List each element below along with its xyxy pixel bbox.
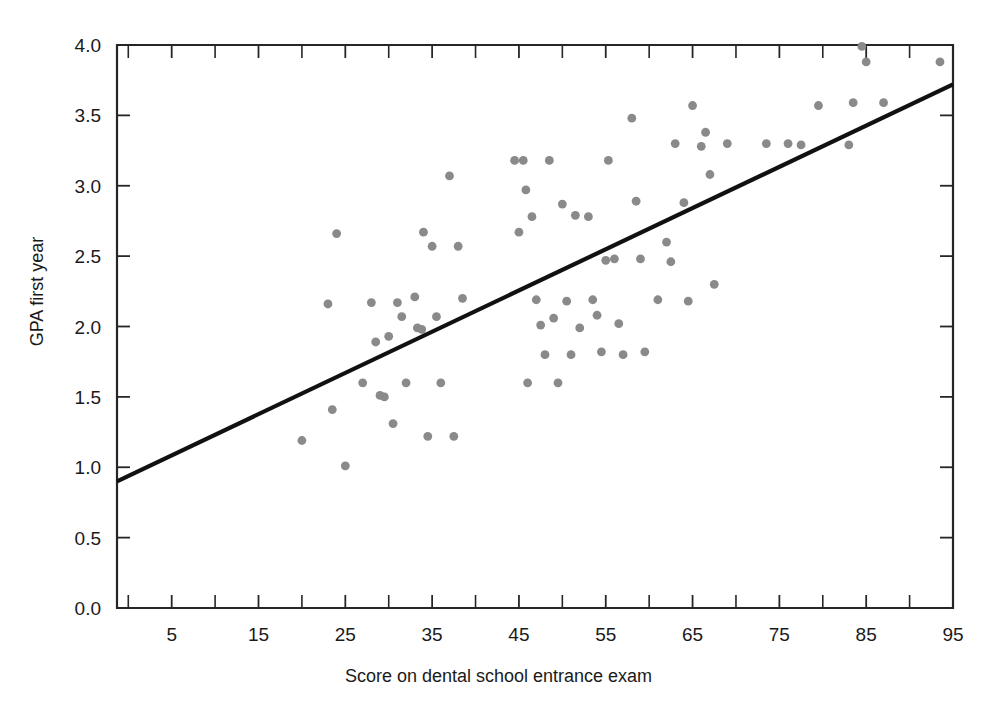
data-point bbox=[593, 311, 602, 320]
data-point bbox=[619, 350, 628, 359]
regression-line bbox=[117, 84, 953, 481]
x-axis-tick-label: 45 bbox=[508, 624, 529, 645]
data-point bbox=[844, 141, 853, 150]
data-point bbox=[515, 228, 524, 237]
y-axis-tick-label: 2.0 bbox=[75, 317, 101, 338]
x-axis-tick-label: 75 bbox=[769, 624, 790, 645]
data-point bbox=[380, 392, 389, 401]
data-point bbox=[588, 295, 597, 304]
data-point bbox=[684, 297, 693, 306]
data-point bbox=[723, 139, 732, 148]
data-point bbox=[575, 324, 584, 333]
data-point bbox=[601, 256, 610, 265]
y-axis-tick-label: 1.0 bbox=[75, 457, 101, 478]
data-point bbox=[521, 186, 530, 195]
y-axis-title: GPA first year bbox=[27, 192, 48, 392]
x-axis-title: Score on dental school entrance exam bbox=[0, 666, 997, 687]
data-point bbox=[417, 325, 426, 334]
x-axis-title-text: Score on dental school entrance exam bbox=[345, 666, 652, 686]
data-point bbox=[402, 378, 411, 387]
data-point bbox=[862, 57, 871, 66]
data-point bbox=[697, 142, 706, 151]
data-point bbox=[632, 197, 641, 206]
x-axis-tick-labels: 5152535455565758595 bbox=[166, 624, 963, 645]
data-point bbox=[706, 170, 715, 179]
data-point bbox=[814, 101, 823, 110]
data-point bbox=[558, 200, 567, 209]
x-axis-tick-label: 15 bbox=[248, 624, 269, 645]
data-point bbox=[523, 378, 532, 387]
data-point bbox=[662, 238, 671, 247]
data-point bbox=[367, 298, 376, 307]
data-point bbox=[571, 211, 580, 220]
plot-frame bbox=[117, 45, 953, 608]
y-axis-tick-label: 0.0 bbox=[75, 598, 101, 619]
data-point bbox=[549, 314, 558, 323]
y-axis-tick-label: 1.5 bbox=[75, 387, 101, 408]
data-point bbox=[397, 312, 406, 321]
scatter-plot-figure: 5152535455565758595 0.00.51.01.52.02.53.… bbox=[0, 0, 997, 717]
y-axis-tick-labels: 0.00.51.01.52.02.53.03.54.0 bbox=[75, 35, 101, 619]
data-point bbox=[393, 298, 402, 307]
data-point bbox=[389, 419, 398, 428]
data-point bbox=[449, 432, 458, 441]
data-point bbox=[528, 212, 537, 221]
data-point bbox=[384, 332, 393, 341]
data-point bbox=[710, 280, 719, 289]
data-point bbox=[371, 338, 380, 347]
plot-frame-outline bbox=[117, 45, 953, 608]
data-point bbox=[410, 293, 419, 302]
data-point bbox=[324, 300, 333, 309]
data-point bbox=[562, 297, 571, 306]
data-point bbox=[936, 57, 945, 66]
data-point bbox=[428, 242, 437, 251]
data-point bbox=[419, 228, 428, 237]
data-point bbox=[432, 312, 441, 321]
y-axis-tick-label: 2.5 bbox=[75, 246, 101, 267]
data-point bbox=[510, 156, 519, 165]
x-axis-tick-label: 5 bbox=[166, 624, 177, 645]
data-point bbox=[849, 98, 858, 107]
data-point bbox=[454, 242, 463, 251]
x-axis-tick-label: 65 bbox=[682, 624, 703, 645]
data-point bbox=[445, 172, 454, 181]
y-axis-tick-label: 4.0 bbox=[75, 35, 101, 56]
data-point bbox=[541, 350, 550, 359]
data-point bbox=[298, 436, 307, 445]
data-point bbox=[332, 229, 341, 238]
y-axis-title-text: GPA first year bbox=[27, 237, 47, 347]
data-point bbox=[358, 378, 367, 387]
data-point bbox=[636, 255, 645, 264]
x-axis-tick-label: 95 bbox=[942, 624, 963, 645]
regression-line-path bbox=[117, 84, 953, 481]
y-axis-ticks bbox=[117, 45, 953, 608]
x-axis-tick-label: 35 bbox=[422, 624, 443, 645]
data-point bbox=[857, 42, 866, 51]
data-point bbox=[545, 156, 554, 165]
data-point bbox=[762, 139, 771, 148]
data-point bbox=[627, 114, 636, 123]
data-point bbox=[640, 347, 649, 356]
data-point bbox=[688, 101, 697, 110]
data-point bbox=[653, 295, 662, 304]
data-point bbox=[341, 461, 350, 470]
data-point bbox=[423, 432, 432, 441]
data-point bbox=[784, 139, 793, 148]
data-point bbox=[671, 139, 680, 148]
chart-canvas: 5152535455565758595 0.00.51.01.52.02.53.… bbox=[0, 0, 997, 717]
data-point bbox=[458, 294, 467, 303]
data-point bbox=[532, 295, 541, 304]
y-axis-tick-label: 0.5 bbox=[75, 528, 101, 549]
data-point bbox=[879, 98, 888, 107]
data-point bbox=[536, 321, 545, 330]
data-point bbox=[797, 141, 806, 150]
data-point bbox=[436, 378, 445, 387]
data-point bbox=[597, 347, 606, 356]
data-point bbox=[519, 156, 528, 165]
data-point bbox=[614, 319, 623, 328]
data-point bbox=[554, 378, 563, 387]
x-axis-tick-label: 85 bbox=[856, 624, 877, 645]
x-axis-tick-label: 25 bbox=[335, 624, 356, 645]
data-point-group bbox=[298, 42, 945, 470]
data-point bbox=[604, 156, 613, 165]
